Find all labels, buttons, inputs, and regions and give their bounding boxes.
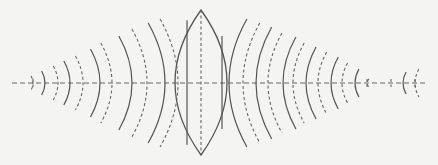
wavefront-solid xyxy=(42,71,45,95)
lens-wavefront-diagram xyxy=(0,0,438,165)
diagram-canvas xyxy=(0,0,438,165)
